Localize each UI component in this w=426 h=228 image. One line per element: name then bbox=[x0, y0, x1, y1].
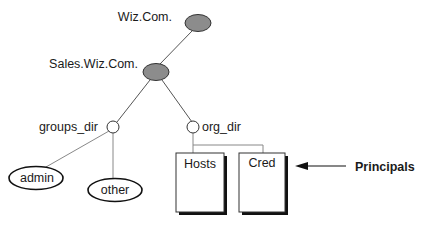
principals-arrowhead-icon bbox=[295, 162, 308, 170]
cred-table-label: Cred bbox=[248, 156, 275, 170]
edge-root-sales bbox=[160, 31, 192, 64]
edge-groups-dir-admin bbox=[46, 131, 109, 167]
hosts-table-label: Hosts bbox=[184, 157, 216, 171]
edge-sales-groups-dir bbox=[117, 80, 150, 122]
other-group-label: other bbox=[101, 183, 130, 197]
edge-sales-org-dir bbox=[162, 80, 192, 122]
groups-dir-label: groups_dir bbox=[39, 120, 98, 134]
org-dir-label: org_dir bbox=[202, 120, 241, 134]
sales-domain-label: Sales.Wiz.Com. bbox=[49, 57, 138, 71]
sales-domain-node bbox=[143, 64, 169, 81]
edge-org-dir-tables bbox=[193, 133, 263, 153]
admin-group-label: admin bbox=[20, 171, 54, 185]
namespace-diagram: Wiz.Com. Sales.Wiz.Com. groups_dir org_d… bbox=[0, 0, 426, 228]
root-domain-label: Wiz.Com. bbox=[118, 10, 172, 24]
principals-annotation: Principals bbox=[355, 160, 415, 174]
groups-dir-node bbox=[107, 121, 119, 133]
root-domain-node bbox=[185, 15, 211, 32]
org-dir-node bbox=[187, 121, 199, 133]
